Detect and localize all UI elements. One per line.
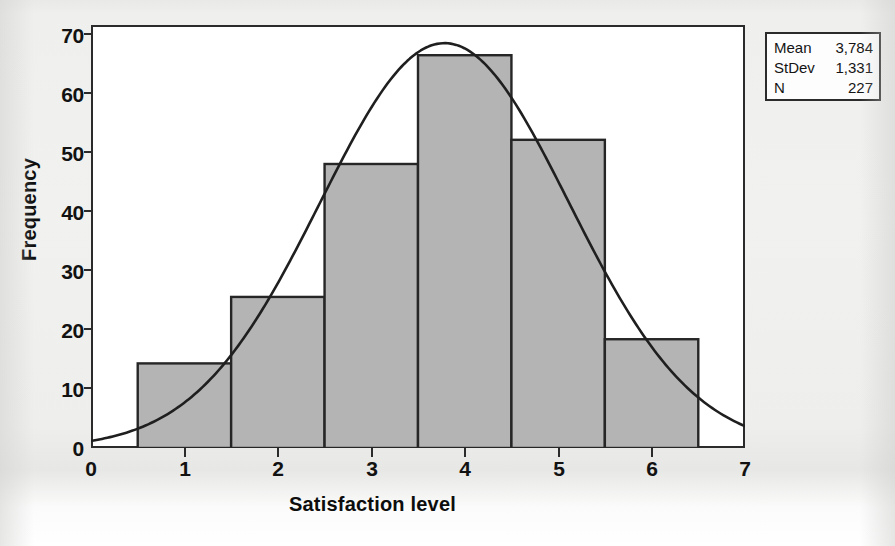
y-tick-mark: [84, 269, 93, 271]
histogram-bar: [138, 363, 231, 448]
x-tick-mark: [277, 448, 279, 457]
histogram-bar: [418, 55, 511, 448]
y-tick-mark: [84, 92, 93, 94]
x-tick-mark: [184, 448, 186, 457]
y-tick-mark: [84, 328, 93, 330]
x-tick-label: 1: [165, 457, 205, 481]
y-tick-label: 50: [40, 142, 84, 166]
stats-row: N 227: [774, 78, 873, 98]
histogram-bar: [325, 164, 418, 448]
stats-value: 3,784: [835, 38, 873, 58]
stats-row: Mean 3,784: [774, 38, 873, 58]
x-tick-mark: [464, 448, 466, 457]
stats-row: StDev 1,331: [774, 58, 873, 78]
stats-key: N: [774, 78, 785, 98]
x-tick-label: 7: [725, 457, 765, 481]
x-tick-label: 5: [539, 457, 579, 481]
y-axis-title: Frequency: [18, 120, 41, 300]
x-tick-label: 4: [445, 457, 485, 481]
y-tick-label: 40: [40, 201, 84, 225]
stats-value: 1,331: [835, 58, 873, 78]
y-tick-label: 20: [40, 319, 84, 343]
x-tick-mark: [371, 448, 373, 457]
histogram-bar: [231, 297, 324, 448]
histogram-bar: [605, 339, 698, 448]
y-tick-mark: [84, 33, 93, 35]
x-tick-label: 3: [352, 457, 392, 481]
plot-canvas: [91, 25, 745, 448]
stats-legend-box: Mean 3,784 StDev 1,331 N 227: [765, 32, 881, 101]
x-tick-mark: [651, 448, 653, 457]
y-tick-label: 30: [40, 260, 84, 284]
y-tick-mark: [84, 151, 93, 153]
y-tick-label: 10: [40, 378, 84, 402]
histogram-figure: 70 60 50 40 30 20 10 0 0 1 2 3 4 5 6 7 S…: [0, 0, 895, 546]
stats-key: StDev: [774, 58, 815, 78]
y-tick-label: 60: [40, 83, 84, 107]
stats-key: Mean: [774, 38, 812, 58]
x-tick-label: 0: [71, 457, 111, 481]
x-axis-title: Satisfaction level: [0, 493, 745, 516]
x-tick-mark: [558, 448, 560, 457]
y-tick-mark: [84, 387, 93, 389]
stats-value: 227: [848, 78, 873, 98]
x-tick-label: 2: [258, 457, 298, 481]
histogram-bar: [511, 140, 604, 448]
histogram-bars: [138, 55, 699, 448]
y-tick-label: 70: [40, 24, 84, 48]
y-tick-mark: [84, 210, 93, 212]
x-tick-label: 6: [632, 457, 672, 481]
